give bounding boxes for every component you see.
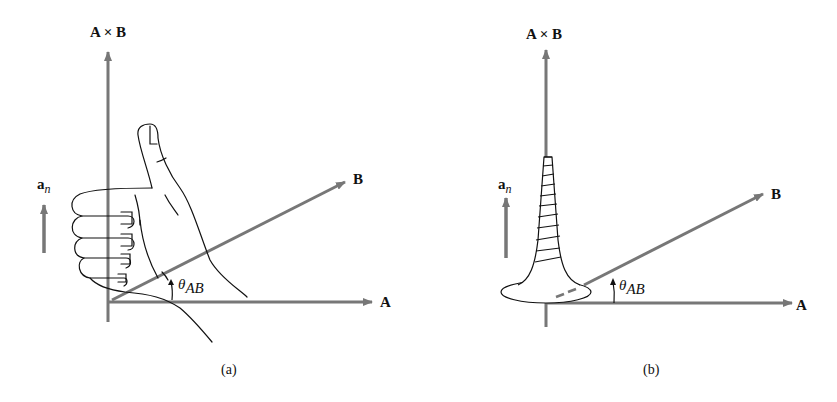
angle-label: θAB	[178, 276, 204, 297]
b-label: B	[353, 171, 363, 188]
unit-normal-label: an	[37, 176, 51, 197]
cross-product-figure	[0, 0, 837, 402]
caption-b: (b)	[643, 362, 659, 378]
screw-icon	[501, 157, 591, 303]
a-label: A	[380, 294, 391, 311]
b-label: B	[771, 186, 781, 203]
b-vector-arrow	[584, 194, 763, 285]
unit-normal-label: an	[498, 176, 512, 197]
a-label: A	[796, 297, 807, 314]
right-hand-icon	[72, 124, 247, 342]
axb-label: A × B	[90, 24, 126, 41]
caption-a: (a)	[221, 362, 237, 378]
angle-label: θAB	[619, 277, 645, 298]
panel-b	[501, 50, 792, 327]
panel-a	[44, 52, 372, 342]
b-vector-arrow	[112, 182, 345, 300]
axb-label: A × B	[526, 26, 562, 43]
